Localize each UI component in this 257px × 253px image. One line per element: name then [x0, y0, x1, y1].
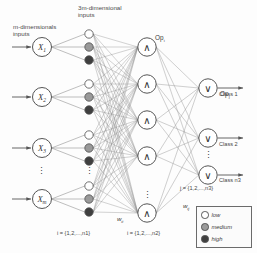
weight-w1-sub: ii: [121, 219, 123, 224]
fuzzy-node-group: [85, 30, 93, 216]
fuzzy-node-medium: [85, 144, 93, 152]
index-layer3-label: j = {1,2,...,n3}: [180, 186, 213, 192]
legend-item-high: high: [201, 235, 222, 243]
output-label-class-n3: Class n3: [219, 178, 241, 184]
fuzzy-node-high: [85, 208, 93, 216]
input-node: X2: [33, 88, 52, 107]
output-label-class-2: Class 2: [219, 142, 238, 148]
legend-panel: low medium high: [196, 206, 252, 248]
fuzzified-header-label: 3m-dimensional inputs: [78, 5, 122, 18]
input-node-group: X1X2X3Xm: [33, 38, 52, 209]
fuzzy-node-high: [85, 56, 93, 64]
fuzzy-node-low: [85, 80, 93, 88]
weight-w2-sub: ij: [187, 206, 189, 211]
diagram-canvas: X1X2X3Xm ∧∧∧∧∧ ∨∨∨ m-dimensionals inputs…: [0, 0, 257, 253]
legend-swatch-high: [201, 235, 209, 243]
input-node: X3: [33, 139, 52, 158]
fuzzy-node-high: [85, 157, 93, 165]
output-label-class-1: Class 1: [219, 92, 238, 98]
fuzzy-node-low: [85, 182, 93, 190]
fuzzy-node-medium: [85, 195, 93, 203]
svg-text:∨: ∨: [204, 83, 211, 94]
or-layer-ellipsis: ⋮: [203, 154, 213, 157]
legend-label-low: low: [212, 212, 221, 218]
fuzzy-node-medium: [85, 43, 93, 51]
op-and-text: Op: [155, 34, 164, 41]
input-arrows: [12, 47, 31, 199]
legend-swatch-low: [201, 211, 209, 219]
weight-w1-label: wii: [110, 209, 123, 231]
legend-swatch-medium: [201, 223, 209, 231]
svg-text:∧: ∧: [143, 208, 150, 219]
input-ellipsis: ⋮: [36, 170, 46, 173]
legend-label-high: high: [212, 236, 223, 242]
or-node: ∨: [199, 129, 217, 147]
fuzzy-node-low: [85, 131, 93, 139]
input-node: X1: [33, 38, 52, 57]
legend-item-medium: medium: [201, 223, 232, 231]
op-and-label: Opi: [148, 28, 165, 50]
input-header-label: m-dimensionals inputs: [13, 24, 56, 37]
weight-w2-label: wij: [176, 196, 189, 218]
index-layer2-label: i = {1,2,...,n2}: [127, 231, 160, 237]
index-layer1-label: i = {1,2,...,n1}: [57, 231, 90, 237]
and-node: ∧: [138, 147, 156, 165]
and-node: ∧: [138, 75, 156, 93]
and-node: ∧: [138, 204, 156, 222]
edges-fuzzy-to-and: [93, 34, 138, 213]
legend-item-low: low: [201, 211, 220, 219]
svg-text:∨: ∨: [204, 133, 211, 144]
svg-text:∨: ∨: [204, 170, 211, 181]
legend-label-medium: medium: [212, 224, 233, 230]
svg-text:∧: ∧: [143, 79, 150, 90]
or-node: ∨: [199, 166, 217, 184]
fuzzy-ellipsis: ⋮: [84, 170, 94, 173]
svg-text:∧: ∧: [143, 151, 150, 162]
input-node: Xm: [33, 190, 52, 209]
and-node: ∧: [138, 111, 156, 129]
fuzzy-node-low: [85, 30, 93, 38]
and-layer-ellipsis: ⋮: [142, 194, 152, 197]
op-and-sub: i: [164, 38, 165, 43]
fuzzy-node-high: [85, 106, 93, 114]
fuzzy-node-medium: [85, 93, 93, 101]
svg-text:∧: ∧: [143, 115, 150, 126]
edges-input-to-fuzzy: [52, 34, 85, 212]
